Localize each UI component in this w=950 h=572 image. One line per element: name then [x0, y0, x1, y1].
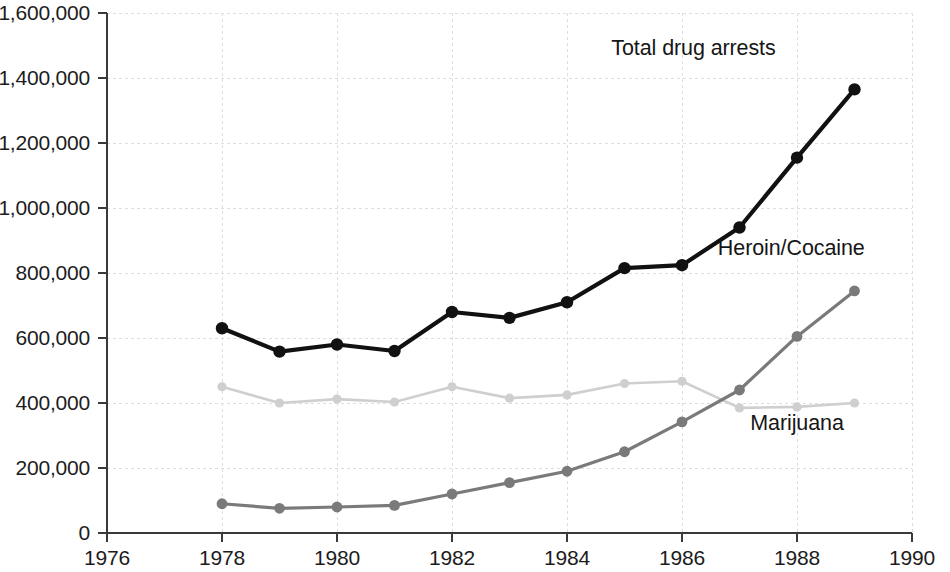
data-series-group	[216, 83, 861, 514]
data-point	[332, 502, 343, 513]
data-point	[503, 312, 515, 324]
data-point	[619, 446, 630, 457]
y-axis-tick-label: 1,400,000	[0, 66, 90, 89]
data-point	[735, 403, 744, 412]
x-axis-tick-label: 1976	[84, 546, 130, 569]
series-marijuana	[217, 377, 859, 413]
data-point	[733, 221, 745, 233]
y-axis-tick-label: 800,000	[15, 261, 90, 284]
series-label-total-drug-arrests: Total drug arrests	[611, 36, 775, 60]
x-axis-tick-label: 1984	[544, 546, 590, 569]
y-axis-tick-labels: 0200,000400,000600,000800,0001,000,0001,…	[0, 1, 90, 544]
data-point	[217, 498, 228, 509]
y-axis-tick-label: 1,200,000	[0, 131, 90, 154]
data-point	[618, 262, 630, 274]
data-point	[562, 466, 573, 477]
y-axis-tick-label: 600,000	[15, 326, 90, 349]
x-axis-tick-label: 1990	[889, 546, 935, 569]
x-axis-tick-label: 1978	[199, 546, 245, 569]
data-point	[332, 395, 341, 404]
data-point	[331, 338, 343, 350]
data-point	[447, 382, 456, 391]
data-point	[388, 345, 400, 357]
gridlines-group	[107, 13, 912, 533]
data-point	[389, 500, 400, 511]
series-label-heroin-cocaine: Heroin/Cocaine	[718, 236, 865, 260]
data-point	[446, 306, 458, 318]
data-point	[848, 83, 860, 95]
x-axis-tick-label: 1986	[659, 546, 705, 569]
series-line	[222, 381, 855, 408]
x-axis-tick-labels: 19761978198019821984198619881990	[84, 546, 935, 569]
data-point	[677, 416, 688, 427]
chart-canvas: 0200,000400,000600,000800,0001,000,0001,…	[0, 0, 950, 572]
y-axis-tick-label: 0	[79, 521, 90, 544]
y-axis-tick-label: 1,600,000	[0, 1, 90, 24]
axes-group	[98, 13, 912, 542]
series-label-marijuana: Marijuana	[750, 411, 844, 435]
data-point	[849, 285, 860, 296]
data-point	[734, 385, 745, 396]
x-axis-tick-label: 1988	[774, 546, 820, 569]
y-axis-tick-label: 200,000	[15, 456, 90, 479]
data-point	[850, 398, 859, 407]
data-point	[562, 390, 571, 399]
data-point	[505, 394, 514, 403]
data-point	[561, 296, 573, 308]
x-axis-tick-label: 1980	[314, 546, 360, 569]
data-point	[447, 489, 458, 500]
data-point	[676, 259, 688, 271]
data-point	[390, 397, 399, 406]
line-chart: 0200,000400,000600,000800,0001,000,0001,…	[0, 0, 950, 572]
data-point	[504, 477, 515, 488]
series-total-drug-arrests	[216, 83, 861, 358]
x-axis-tick-label: 1982	[429, 546, 475, 569]
data-point	[792, 331, 803, 342]
series-line	[222, 89, 855, 351]
data-point	[677, 377, 686, 386]
data-point	[791, 151, 803, 163]
data-point	[217, 382, 226, 391]
data-point	[216, 322, 228, 334]
y-axis-tick-label: 400,000	[15, 391, 90, 414]
series-annotations-group: Total drug arrestsHeroin/CocaineMarijuan…	[611, 36, 864, 434]
data-point	[274, 503, 285, 514]
data-point	[620, 379, 629, 388]
data-point	[275, 398, 284, 407]
data-point	[273, 345, 285, 357]
y-axis-tick-label: 1,000,000	[0, 196, 90, 219]
